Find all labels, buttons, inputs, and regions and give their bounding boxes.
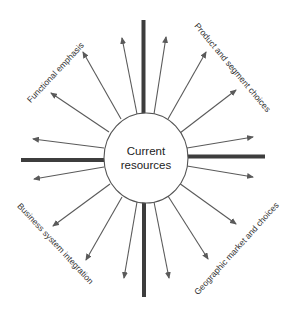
label-business-system-integration: Business system integration [15, 201, 95, 286]
arrow-icon [53, 184, 110, 226]
arrow-icon [168, 196, 208, 259]
arrow-icon [33, 139, 104, 148]
arrow-icon [179, 183, 236, 224]
arrow-icon [154, 37, 166, 114]
arrow-icon [124, 202, 137, 278]
arrow-icon [86, 197, 122, 260]
arrow-icon [34, 167, 104, 179]
center-label-line1: Current [127, 145, 166, 157]
arrow-icon [83, 52, 121, 119]
label-functional-emphasis: Functional emphasis [25, 40, 86, 104]
arrow-icon [122, 38, 137, 114]
label-geographic-market-choices: Geographic market and choices [192, 200, 281, 297]
arrow-icon [180, 90, 236, 133]
label-product-segment-choices: Product and segment choices [192, 21, 272, 114]
arrow-icon [51, 93, 109, 132]
arrow-icon [187, 166, 253, 177]
current-resources-ellipse [104, 113, 188, 203]
arrow-icon [168, 52, 206, 119]
arrow-icon [154, 202, 169, 278]
strategy-diagram: Current resources Functional emphasis Pr… [0, 0, 290, 313]
arrow-icon [187, 137, 253, 148]
center-label-line2: resources [121, 159, 172, 171]
